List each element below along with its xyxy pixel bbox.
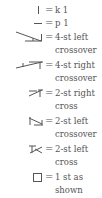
legend-label-continued: cross xyxy=(55,155,78,169)
legend-item-1st-as-shown: = 1 st as shown xyxy=(0,170,102,184)
equals-sign: = xyxy=(45,58,53,72)
legend-label-continued: crossover xyxy=(55,71,97,85)
legend-label: 1 st as xyxy=(55,170,83,184)
legend-label: p 1 xyxy=(55,16,69,30)
horizontal-dash-icon xyxy=(33,16,43,30)
equals-sign: = xyxy=(45,86,53,100)
two-st-right-cross-icon xyxy=(28,86,44,100)
two-st-left-crossover-icon xyxy=(28,114,44,128)
legend-label: 2-st left xyxy=(55,114,88,128)
vertical-bar-icon xyxy=(36,3,42,17)
legend-item-4st-right-crossover: = 4-st right crossover xyxy=(0,58,102,72)
legend-item-2st-right-cross: = 2-st right cross xyxy=(0,86,102,100)
empty-square-icon xyxy=(32,170,44,184)
equals-sign: = xyxy=(45,142,53,156)
legend-item-4st-left-crossover: = 4-st left crossover xyxy=(0,30,102,44)
equals-sign: = xyxy=(45,30,53,44)
legend-label-continued: crossover xyxy=(55,43,97,57)
legend-item-2st-left-cross: = 2-st left cross xyxy=(0,142,102,156)
equals-sign: = xyxy=(45,16,53,30)
legend-item-2st-left-crossover: = 2-st left crossover xyxy=(0,114,102,128)
equals-sign: = xyxy=(45,170,53,184)
legend-label: 4-st right xyxy=(55,58,95,72)
legend-label: 4-st left xyxy=(55,30,88,44)
equals-sign: = xyxy=(45,114,53,128)
legend-label: 2-st left xyxy=(55,142,88,156)
four-st-right-crossover-icon xyxy=(15,58,45,72)
legend-item-k1: = k 1 xyxy=(0,3,102,17)
legend-item-p1: = p 1 xyxy=(0,16,102,30)
legend-label-continued: shown xyxy=(55,183,83,197)
four-st-left-crossover-icon xyxy=(15,30,45,44)
legend-label-continued: crossover xyxy=(55,127,97,141)
equals-sign: = xyxy=(45,3,53,17)
legend-label: k 1 xyxy=(55,3,68,17)
two-st-left-cross-icon xyxy=(28,142,44,156)
legend-label: 2-st right xyxy=(55,86,95,100)
legend-label-continued: cross xyxy=(55,99,78,113)
